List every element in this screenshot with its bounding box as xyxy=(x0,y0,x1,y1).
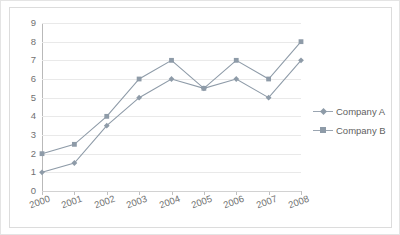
chart-legend: Company ACompany B xyxy=(313,104,393,142)
legend-item[interactable]: Company B xyxy=(313,123,393,138)
x-axis-tick-label: 2007 xyxy=(255,194,278,211)
series-marker-square xyxy=(104,114,109,119)
legend-square-icon xyxy=(313,125,333,136)
series-marker-square xyxy=(72,142,77,147)
x-axis-tick-label: 2002 xyxy=(93,194,116,211)
x-axis-tick-label: 2001 xyxy=(60,194,83,211)
x-axis-tick-label: 2000 xyxy=(28,194,51,211)
x-axis-tick-label: 2008 xyxy=(287,194,310,211)
series-marker-square xyxy=(169,58,174,63)
gridline xyxy=(42,191,301,192)
x-axis-tick-label: 2004 xyxy=(158,194,181,211)
series-marker-square xyxy=(299,39,304,44)
series-layer xyxy=(42,23,301,191)
legend-item-label: Company A xyxy=(333,107,385,117)
series-marker-diamond xyxy=(169,76,175,82)
x-axis-tick-label: 2005 xyxy=(190,194,213,211)
x-axis-tick-label: 2003 xyxy=(125,194,148,211)
legend-item-label: Company B xyxy=(333,126,386,136)
series-marker-square xyxy=(40,151,45,156)
series-marker-square xyxy=(137,77,142,82)
legend-diamond-icon xyxy=(313,106,333,117)
series-marker-square xyxy=(234,58,239,63)
plot-area xyxy=(42,23,301,191)
legend-symbol xyxy=(319,108,326,115)
chart-frame: 0123456789 20002001200220032004200520062… xyxy=(0,0,400,235)
legend-symbol xyxy=(320,127,326,133)
legend-item[interactable]: Company A xyxy=(313,104,393,119)
series-marker-square xyxy=(201,86,206,91)
series-marker-diamond xyxy=(233,76,239,82)
x-axis-tick-label: 2006 xyxy=(222,194,245,211)
series-marker-square xyxy=(266,77,271,82)
